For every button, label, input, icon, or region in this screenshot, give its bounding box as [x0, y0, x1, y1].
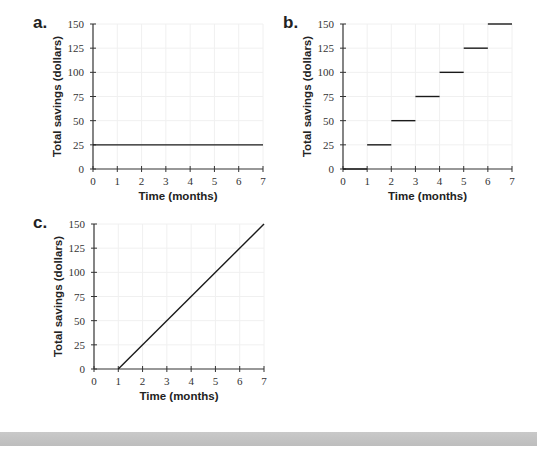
y-tick-label: 0: [329, 163, 335, 175]
x-tick-label: 2: [389, 175, 395, 187]
x-tick-label: 1: [115, 175, 121, 187]
x-tick-label: 0: [340, 175, 346, 187]
y-tick-label: 150: [69, 218, 86, 230]
x-axis-title: Time (months): [138, 190, 217, 202]
x-tick-label: 5: [212, 175, 218, 187]
y-tick-label: 25: [74, 339, 86, 351]
x-tick-label: 1: [364, 175, 370, 187]
gridlines: [94, 224, 264, 369]
y-tick-label: 50: [74, 315, 86, 327]
chart-c: 012345670255075100125150Time (months)Tot…: [52, 218, 267, 402]
y-axis-title: Total savings (dollars): [52, 236, 64, 357]
y-tick-label: 125: [68, 42, 85, 54]
x-tick-label: 7: [260, 175, 266, 187]
x-tick-label: 3: [163, 175, 169, 187]
x-tick-label: 0: [90, 175, 96, 187]
chart-a: 012345670255075100125150Time (months)Tot…: [51, 18, 266, 202]
x-tick-label: 4: [187, 175, 193, 187]
y-tick-label: 75: [73, 91, 85, 103]
x-axis-title: Time (months): [388, 190, 467, 202]
x-tick-label: 3: [164, 375, 170, 387]
x-tick-label: 5: [213, 375, 219, 387]
y-tick-label: 25: [73, 139, 85, 151]
x-axis-title: Time (months): [139, 390, 218, 402]
x-tick-label: 6: [485, 175, 491, 187]
x-tick-label: 1: [116, 375, 122, 387]
y-tick-label: 100: [318, 66, 335, 78]
x-tick-label: 3: [413, 175, 419, 187]
y-tick-label: 100: [69, 266, 86, 278]
chart-b: 012345670255075100125150Time (months)Tot…: [301, 18, 515, 202]
y-tick-label: 50: [323, 115, 335, 127]
x-tick-label: 7: [509, 175, 515, 187]
y-tick-label: 100: [68, 66, 85, 78]
y-tick-label: 0: [80, 363, 86, 375]
x-tick-label: 0: [91, 375, 97, 387]
x-tick-label: 4: [188, 375, 194, 387]
y-tick-label: 75: [323, 91, 335, 103]
y-tick-label: 150: [318, 18, 335, 30]
x-tick-label: 6: [237, 375, 243, 387]
x-tick-label: 4: [437, 175, 443, 187]
y-axis-title: Total savings (dollars): [301, 36, 313, 157]
y-tick-label: 50: [73, 115, 85, 127]
y-tick-label: 75: [74, 291, 86, 303]
y-tick-label: 125: [69, 242, 86, 254]
y-tick-label: 0: [79, 163, 85, 175]
charts-canvas: 012345670255075100125150Time (months)Tot…: [0, 0, 537, 450]
y-axis-title: Total savings (dollars): [51, 36, 63, 157]
y-tick-label: 150: [68, 18, 85, 30]
bottom-divider-bar: [0, 432, 537, 446]
x-tick-label: 2: [139, 175, 145, 187]
x-tick-label: 5: [461, 175, 467, 187]
gridlines: [93, 24, 263, 169]
x-tick-label: 2: [140, 375, 146, 387]
y-tick-label: 125: [318, 42, 335, 54]
x-tick-label: 6: [236, 175, 242, 187]
x-tick-label: 7: [261, 375, 267, 387]
y-tick-label: 25: [323, 139, 335, 151]
